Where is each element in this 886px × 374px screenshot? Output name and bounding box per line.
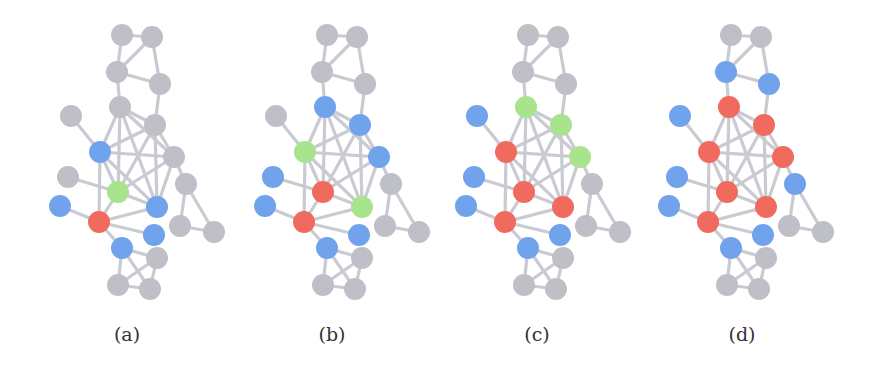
graph-node-grey <box>716 274 738 296</box>
graph-node-red <box>552 196 574 218</box>
graph-node-blue <box>752 224 774 246</box>
graph-node-grey <box>109 96 131 118</box>
graph-node-blue <box>368 146 390 168</box>
graph-node-grey <box>575 215 597 237</box>
graph-node-blue <box>262 166 284 188</box>
graph-node-grey <box>60 105 82 127</box>
graph-node-blue <box>658 195 680 217</box>
graph-node-blue <box>758 73 780 95</box>
graph-node-grey <box>344 278 366 300</box>
graph-node-grey <box>552 247 574 269</box>
graph-node-grey <box>111 24 133 46</box>
graph-node-blue <box>463 166 485 188</box>
graph-node-grey <box>149 73 171 95</box>
graph-node-grey <box>169 215 191 237</box>
graph-node-grey <box>380 173 402 195</box>
graph-node-blue <box>720 237 742 259</box>
graph-node-blue <box>666 166 688 188</box>
graph-node-grey <box>778 215 800 237</box>
graph-node-grey <box>265 105 287 127</box>
graph-node-grey <box>545 278 567 300</box>
graph-node-blue <box>549 224 571 246</box>
graph-node-blue <box>49 195 71 217</box>
graph-node-grey <box>555 73 577 95</box>
graph-node-red <box>755 196 777 218</box>
graph-node-grey <box>139 278 161 300</box>
graph-node-red <box>513 181 535 203</box>
graph-node-grey <box>512 61 534 83</box>
graph-node-blue <box>143 224 165 246</box>
graph-node-grey <box>346 26 368 48</box>
graph-figure <box>0 0 886 374</box>
graph-node-red <box>718 96 740 118</box>
graph-node-red <box>88 211 110 233</box>
graph-node-red <box>698 141 720 163</box>
graph-node-grey <box>107 274 129 296</box>
graph-node-grey <box>755 247 777 269</box>
graph-node-blue <box>89 141 111 163</box>
graph-node-blue <box>111 237 133 259</box>
graph-node-grey <box>581 173 603 195</box>
graph-node-grey <box>374 215 396 237</box>
graph-node-green <box>351 196 373 218</box>
graph-node-grey <box>163 146 185 168</box>
graph-node-green <box>294 141 316 163</box>
graph-node-green <box>107 181 129 203</box>
graph-node-grey <box>812 221 834 243</box>
graph-node-blue <box>669 105 691 127</box>
graph-node-red <box>495 141 517 163</box>
graph-panel-a <box>49 24 225 300</box>
graph-node-blue <box>466 105 488 127</box>
graph-edge <box>118 107 120 192</box>
graph-panel-d <box>658 24 834 300</box>
graph-edge <box>727 107 729 192</box>
graph-node-grey <box>106 61 128 83</box>
graph-edge <box>524 107 526 192</box>
graph-node-grey <box>312 274 334 296</box>
graph-node-grey <box>547 26 569 48</box>
panel-label-b: (b) <box>302 323 362 345</box>
graph-node-red <box>753 114 775 136</box>
graph-node-green <box>515 96 537 118</box>
graph-edge <box>323 107 325 192</box>
graph-node-red <box>312 181 334 203</box>
graph-node-grey <box>175 173 197 195</box>
graph-node-grey <box>609 221 631 243</box>
graph-node-red <box>494 211 516 233</box>
graph-node-blue <box>314 96 336 118</box>
graph-node-grey <box>146 247 168 269</box>
graph-node-blue <box>455 195 477 217</box>
graph-node-red <box>697 211 719 233</box>
graph-node-blue <box>517 237 539 259</box>
graph-node-grey <box>720 24 742 46</box>
graph-node-red <box>772 146 794 168</box>
graph-node-grey <box>750 26 772 48</box>
graph-node-blue <box>146 196 168 218</box>
graph-node-grey <box>408 221 430 243</box>
panel-label-d: (d) <box>712 323 772 345</box>
graph-panel-c <box>455 24 631 300</box>
graph-node-green <box>569 146 591 168</box>
panel-label-a: (a) <box>97 323 157 345</box>
graph-node-grey <box>316 24 338 46</box>
graph-node-grey <box>203 221 225 243</box>
graph-node-grey <box>144 114 166 136</box>
graph-node-grey <box>141 26 163 48</box>
graph-node-blue <box>349 114 371 136</box>
graph-node-blue <box>715 61 737 83</box>
graph-node-grey <box>748 278 770 300</box>
panel-label-c: (c) <box>507 323 567 345</box>
graph-panel-b <box>254 24 430 300</box>
graph-node-red <box>716 181 738 203</box>
graph-node-grey <box>311 61 333 83</box>
graph-node-blue <box>254 195 276 217</box>
graph-node-grey <box>354 73 376 95</box>
graph-node-red <box>293 211 315 233</box>
graph-node-grey <box>517 24 539 46</box>
graph-node-blue <box>316 237 338 259</box>
graph-node-grey <box>57 166 79 188</box>
graph-node-grey <box>351 247 373 269</box>
graph-node-blue <box>784 173 806 195</box>
graph-node-grey <box>513 274 535 296</box>
graph-node-green <box>550 114 572 136</box>
